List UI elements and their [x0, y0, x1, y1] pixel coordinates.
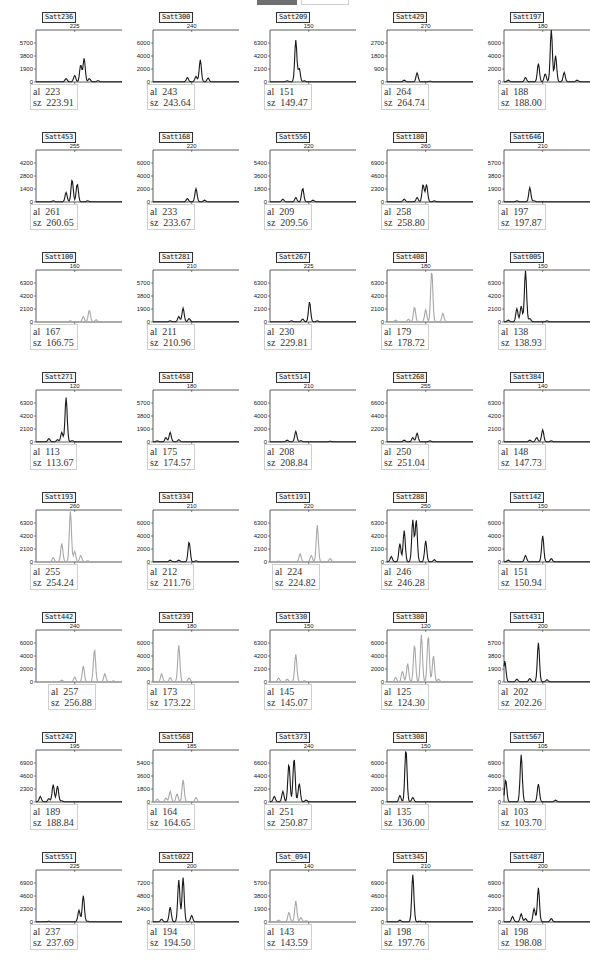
peak-trace	[387, 433, 473, 441]
fragment-size: sz 202.26	[501, 697, 542, 708]
fragment-size: sz 223.91	[33, 97, 74, 108]
y-tick-label: 5700	[20, 40, 34, 46]
peak-chart: 2600210042006300	[8, 502, 126, 572]
y-tick-label: 5700	[137, 400, 151, 406]
allele-info-box: al 237 sz 237.69	[30, 924, 78, 950]
size-scale-label: 150	[304, 623, 315, 629]
allele-info-box: al 188 sz 188.00	[498, 84, 546, 110]
peak-trace	[387, 185, 473, 202]
marker-panel: Satt180 2600230046006900 al 258 sz 258.8…	[359, 132, 477, 252]
y-tick-label: 6900	[488, 880, 502, 886]
size-scale-label: 210	[187, 263, 198, 269]
marker-panel: Satt022 2000240048007200 al 194 sz 194.5…	[125, 852, 243, 972]
allele-info-box: al 145 sz 145.07	[264, 684, 312, 710]
peak-chart: 1200210042006300	[8, 382, 126, 452]
size-scale-label: 220	[187, 143, 198, 149]
y-tick-label: 0	[264, 559, 268, 565]
y-tick-label: 1900	[488, 186, 502, 192]
y-tick-label: 5400	[254, 160, 268, 166]
allele-call: al 143	[267, 926, 294, 937]
peak-chart: 2000240048007200	[125, 862, 243, 932]
tab-inactive[interactable]	[301, 0, 349, 5]
size-scale-label: 180	[187, 623, 198, 629]
marker-panel: Satt300 2400200040006000 al 243 sz 243.6…	[125, 12, 243, 132]
marker-panel: Satt271 1200210042006300 al 113 sz 113.6…	[8, 372, 126, 492]
y-tick-label: 4400	[254, 773, 268, 779]
y-tick-label: 2300	[371, 186, 385, 192]
peak-chart: 2100200040006000	[242, 382, 360, 452]
y-tick-label: 6000	[371, 640, 385, 646]
y-tick-label: 6300	[488, 400, 502, 406]
size-scale-label: 140	[538, 383, 549, 389]
y-tick-label: 4200	[20, 533, 34, 539]
fragment-size: sz 209.56	[267, 217, 308, 228]
y-tick-label: 2100	[371, 306, 385, 312]
allele-call: al 208	[267, 446, 294, 457]
size-scale-label: 260	[70, 503, 81, 509]
size-scale-label: 225	[304, 263, 315, 269]
y-tick-label: 4000	[137, 653, 151, 659]
marker-panel: Satt005 1500210042006300 al 138 sz 138.9…	[476, 252, 590, 372]
fragment-size: sz 164.65	[150, 817, 191, 828]
allele-info-box: al 212 sz 211.76	[147, 564, 194, 590]
allele-call: al 250	[384, 446, 411, 457]
fragment-size: sz 138.93	[501, 337, 542, 348]
peak-chart: 1400190038005700	[242, 862, 360, 932]
peak-chart: 2100190038005700	[476, 142, 590, 212]
peak-chart: 1850180036005400	[125, 742, 243, 812]
size-scale-label: 180	[538, 23, 549, 29]
allele-call: al 103	[501, 806, 528, 817]
y-tick-label: 6600	[254, 760, 268, 766]
marker-panel: Satt197 1800200040006000 al 188 sz 188.0…	[476, 12, 590, 132]
peak-chart: 2200210042006300	[242, 502, 360, 572]
size-scale-label: 120	[70, 383, 81, 389]
allele-call: al 261	[33, 206, 60, 217]
y-tick-label: 4000	[488, 53, 502, 59]
size-scale-label: 260	[421, 143, 432, 149]
tab-active[interactable]	[257, 0, 297, 5]
y-tick-label: 2000	[137, 186, 151, 192]
peak-chart: 2200180036005400	[242, 142, 360, 212]
y-tick-label: 2300	[20, 906, 34, 912]
y-tick-label: 2000	[137, 666, 151, 672]
marker-panel: Satt330 1500210042006300 al 145 sz 145.0…	[242, 612, 360, 732]
peak-trace	[387, 520, 473, 562]
y-tick-label: 6300	[254, 280, 268, 286]
allele-call: al 189	[33, 806, 60, 817]
y-tick-label: 6900	[371, 160, 385, 166]
marker-panel: Satt281 2100190038005700 al 211 sz 210.9…	[125, 252, 243, 372]
peak-chart: 1500200040006000	[359, 742, 477, 812]
allele-call: al 138	[501, 326, 528, 337]
peak-chart: 1200200040006000	[359, 622, 477, 692]
allele-call: al 223	[33, 86, 60, 97]
size-scale-label: 250	[421, 503, 432, 509]
y-tick-label: 2100	[20, 306, 34, 312]
y-tick-label: 4600	[371, 173, 385, 179]
peak-trace	[504, 430, 590, 442]
allele-call: al 179	[384, 326, 411, 337]
fragment-size: sz 143.59	[267, 937, 308, 948]
size-scale-label: 270	[421, 23, 432, 29]
size-scale-label: 140	[304, 863, 315, 869]
y-tick-label: 2400	[137, 906, 151, 912]
y-tick-label: 2000	[20, 666, 34, 672]
y-tick-label: 2300	[488, 906, 502, 912]
size-scale-label: 240	[304, 743, 315, 749]
y-tick-label: 1800	[371, 53, 385, 59]
peak-trace	[153, 543, 239, 562]
y-tick-label: 6300	[488, 280, 502, 286]
top-tab-strip	[0, 0, 590, 8]
fragment-size: sz 145.07	[267, 697, 308, 708]
y-tick-label: 4200	[20, 160, 34, 166]
peak-trace	[36, 181, 122, 202]
fragment-size: sz 237.69	[33, 937, 74, 948]
y-tick-label: 6000	[137, 640, 151, 646]
peak-trace	[36, 58, 122, 81]
peak-chart: 1800200040006000	[125, 622, 243, 692]
peak-chart: 2400220044006600	[242, 742, 360, 812]
y-tick-label: 5700	[488, 640, 502, 646]
y-tick-label: 3800	[137, 413, 151, 419]
allele-call: al 224	[275, 566, 302, 577]
peak-trace	[153, 308, 239, 322]
peak-chart: 2400200040006000	[125, 22, 243, 92]
